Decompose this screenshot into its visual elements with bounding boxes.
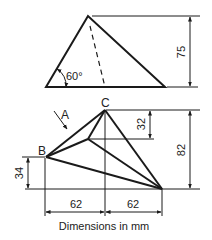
point-label-A: A: [61, 108, 69, 122]
dimension-label-82: 82: [175, 144, 187, 156]
dimension-label-34: 34: [13, 167, 25, 179]
angle-label: 60°: [66, 70, 83, 82]
edge-B-C: [46, 110, 105, 157]
bottom-view: C B A 32 82 34 62 62 Dimensions in mm: [13, 96, 200, 232]
edge-C-inner: [88, 110, 105, 139]
technical-drawing: 60° 75 C B A 32 82 34: [0, 0, 212, 240]
point-label-C: C: [101, 96, 110, 110]
point-label-B: B: [38, 144, 46, 158]
hidden-edge-dashed: [90, 26, 105, 87]
top-view: 60° 75: [46, 16, 200, 87]
edge-B-D: [46, 157, 162, 189]
angle-arc: [57, 69, 66, 87]
edge-inner-D: [88, 139, 162, 189]
caption: Dimensions in mm: [59, 220, 149, 232]
dimension-label-62-left: 62: [70, 198, 82, 210]
dimension-label-75: 75: [175, 46, 187, 58]
edge-B-inner: [46, 139, 88, 157]
dimension-label-62-right: 62: [127, 198, 139, 210]
dimension-label-32: 32: [135, 118, 147, 130]
edge-C-D: [105, 110, 162, 189]
